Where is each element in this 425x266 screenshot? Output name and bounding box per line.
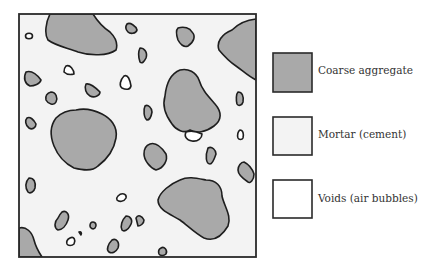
- legend-swatch-voids: [273, 180, 312, 218]
- legend-label-mortar: Mortar (cement): [318, 128, 406, 140]
- void-bubble: [117, 194, 127, 201]
- void-bubble: [238, 130, 244, 140]
- void-bubble: [185, 131, 202, 141]
- aggregate-small: [159, 247, 167, 255]
- legend-swatch-coarse-aggregate: [273, 53, 312, 92]
- legend-swatch-mortar: [273, 117, 312, 155]
- aggregate-small: [46, 92, 57, 104]
- legend-label-coarse-aggregate: Coarse aggregate: [318, 64, 413, 76]
- aggregate-small: [236, 92, 243, 105]
- legend-label-voids: Voids (air bubbles): [318, 192, 418, 204]
- void-bubble: [26, 33, 33, 39]
- aggregate-small: [26, 178, 35, 193]
- aggregate-small: [90, 222, 96, 229]
- aggregate-small: [144, 105, 152, 120]
- void-bubble: [67, 237, 75, 245]
- aggregate-small: [136, 216, 144, 226]
- aggregate-small: [139, 48, 147, 63]
